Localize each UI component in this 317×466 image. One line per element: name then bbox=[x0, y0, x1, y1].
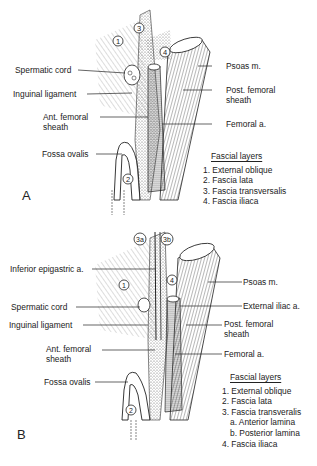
label-fossa-ovalis-a: Fossa ovalis bbox=[42, 149, 89, 159]
legend-item: 1. External oblique bbox=[203, 165, 286, 176]
marker-1: 1 bbox=[122, 282, 126, 289]
legend-item: 1. External oblique bbox=[222, 386, 301, 397]
marker-3: 3 bbox=[137, 24, 141, 33]
label-ant-femoral-sheath-a-line1: Ant. femoral bbox=[43, 112, 88, 122]
label-ant-femoral-sheath-b-line2: sheath bbox=[46, 354, 71, 364]
label-femoral-a-a: Femoral a. bbox=[226, 119, 266, 129]
legend-item: 3. Fascia transversalis bbox=[203, 186, 286, 197]
legend-item: 2. Fascia lata bbox=[222, 396, 301, 407]
label-inguinal-ligament-a: Inguinal ligament bbox=[13, 89, 76, 99]
legend-item: 3. Fascia transveralis bbox=[222, 407, 301, 418]
legend-subitem: a. Anterior lamina bbox=[222, 417, 301, 428]
legend-fascial-layers-a: Fascial layers 1. External oblique 2. Fa… bbox=[203, 151, 286, 207]
panel-a-drawing bbox=[95, 10, 210, 215]
legend-item: 2. Fascia lata bbox=[203, 175, 286, 186]
label-ant-femoral-sheath-b-line1: Ant. femoral bbox=[46, 344, 91, 354]
label-spermatic-cord-a: Spermatic cord bbox=[15, 65, 71, 75]
label-psoas-b: Psoas m. bbox=[243, 277, 278, 287]
marker-3b: 3b bbox=[163, 236, 171, 243]
marker-2: 2 bbox=[126, 175, 130, 184]
marker-4: 4 bbox=[163, 48, 167, 57]
marker-3a: 3a bbox=[136, 236, 144, 243]
label-fossa-ovalis-b: Fossa ovalis bbox=[44, 377, 91, 387]
label-inferior-epigastric-b: Inferior epigastric a. bbox=[10, 264, 84, 274]
label-external-iliac-b: External iliac a. bbox=[243, 301, 300, 311]
label-inguinal-ligament-b: Inguinal ligament bbox=[9, 320, 72, 330]
panel-letter-b: B bbox=[17, 427, 26, 442]
legend-item: 4. Fascia iliaca bbox=[222, 439, 301, 450]
label-post-femoral-sheath-b-line1: Post. femoral bbox=[224, 319, 273, 329]
label-psoas-a: Psoas m. bbox=[226, 61, 261, 71]
legend-subitem: b. Posterior lamina bbox=[222, 428, 301, 439]
marker-1: 1 bbox=[116, 37, 120, 46]
label-spermatic-cord-b: Spermatic cord bbox=[11, 302, 67, 312]
label-femoral-a-b: Femoral a. bbox=[224, 349, 264, 359]
label-post-femoral-sheath-b-line2: sheath bbox=[224, 329, 249, 339]
legend-title-a: Fascial layers bbox=[203, 151, 286, 162]
legend-fascial-layers-b: Fascial layers 1. External oblique 2. Fa… bbox=[222, 372, 301, 449]
panel-b-drawing bbox=[95, 232, 220, 440]
marker-2: 2 bbox=[129, 407, 133, 414]
label-post-femoral-sheath-a-line2: sheath bbox=[226, 95, 251, 105]
panel-letter-a: A bbox=[22, 188, 31, 203]
label-post-femoral-sheath-a-line1: Post. femoral bbox=[226, 85, 275, 95]
legend-title-b: Fascial layers bbox=[222, 372, 301, 383]
label-ant-femoral-sheath-a-line2: sheath bbox=[43, 122, 68, 132]
marker-4: 4 bbox=[170, 277, 174, 284]
legend-item: 4. Fascia iliaca bbox=[203, 196, 286, 207]
